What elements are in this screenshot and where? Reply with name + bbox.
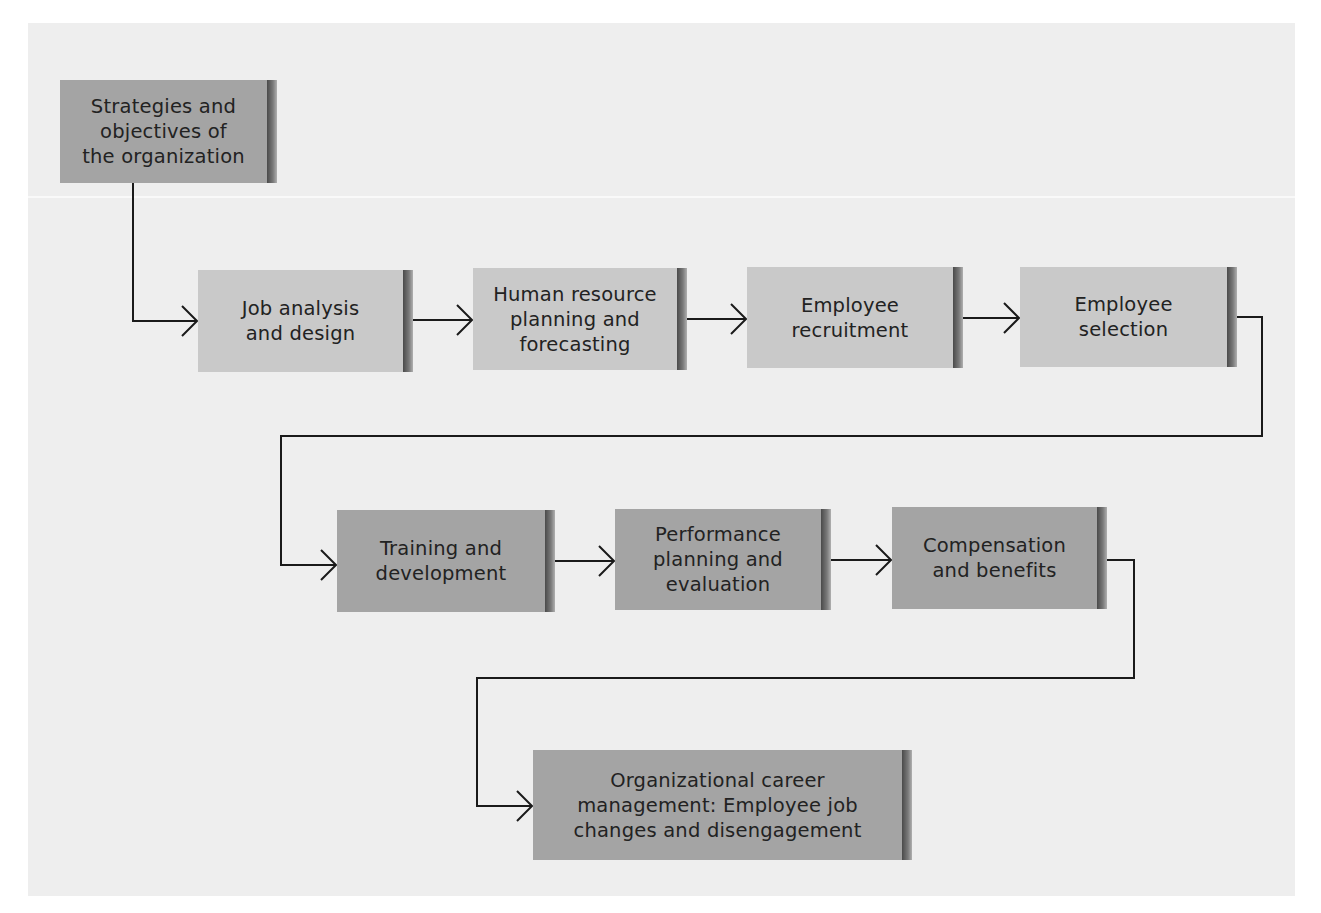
node-selection: Employee selection [1020, 267, 1237, 367]
box-shadow-bar [267, 80, 277, 183]
box-shadow-bar [677, 268, 687, 370]
node-label: Human resource planning and forecasting [493, 282, 667, 357]
node-label: Compensation and benefits [923, 533, 1076, 583]
node-label: Training and development [376, 536, 517, 586]
node-job-analysis: Job analysis and design [198, 270, 413, 372]
connector-strategies-to-job-analysis [133, 183, 196, 321]
node-label: Organizational career management: Employ… [573, 768, 871, 843]
node-label: Employee recruitment [792, 293, 919, 343]
node-strategies: Strategies and objectives of the organiz… [60, 80, 277, 183]
box-shadow-bar [1227, 267, 1237, 367]
node-label: Strategies and objectives of the organiz… [82, 94, 255, 169]
box-shadow-bar [902, 750, 912, 860]
box-shadow-bar [821, 509, 831, 610]
node-label: Performance planning and evaluation [653, 522, 793, 597]
box-shadow-bar [545, 510, 555, 612]
node-label: Employee selection [1074, 292, 1182, 342]
node-compensation: Compensation and benefits [892, 507, 1107, 609]
node-label: Job analysis and design [242, 296, 370, 346]
box-shadow-bar [953, 267, 963, 368]
node-performance: Performance planning and evaluation [615, 509, 831, 610]
node-hr-planning: Human resource planning and forecasting [473, 268, 687, 370]
node-training: Training and development [337, 510, 555, 612]
node-recruitment: Employee recruitment [747, 267, 963, 368]
box-shadow-bar [403, 270, 413, 372]
box-shadow-bar [1097, 507, 1107, 609]
node-career: Organizational career management: Employ… [533, 750, 912, 860]
